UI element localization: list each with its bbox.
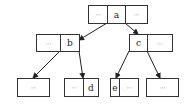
node-key-label: b — [67, 38, 73, 48]
node-d: ···d — [65, 79, 99, 97]
edge-arrow-root-to-c — [125, 23, 138, 34]
node-key-label: c — [136, 38, 141, 48]
node-root: ···a··· — [89, 6, 148, 24]
ellipsis-label: ··· — [31, 84, 37, 91]
nodes: ···a······bc·········de······ — [18, 6, 179, 97]
edge-arrow-root-to-b — [79, 23, 107, 40]
edge-arrow-c-to-leaf4 — [147, 51, 160, 78]
node-key-label: a — [114, 10, 120, 20]
node-c: c··· — [130, 35, 173, 52]
ellipsis-label: ··· — [71, 84, 77, 91]
tree-diagram: ···a······bc·········de······ — [0, 0, 191, 107]
node-key-label: d — [88, 83, 94, 93]
edge-arrow-b-to-leaf1 — [33, 51, 60, 78]
node-leaf1: ··· — [18, 79, 50, 97]
ellipsis-label: ··· — [95, 11, 101, 18]
ellipsis-label: ··· — [157, 40, 163, 47]
ellipsis-label: ··· — [46, 40, 52, 47]
edge-arrow-c-to-e — [116, 51, 129, 78]
node-b: ···b — [37, 35, 80, 52]
node-key-label: e — [112, 83, 117, 93]
ellipsis-label: ··· — [160, 84, 166, 91]
edge-arrow-b-to-d — [79, 51, 83, 78]
node-leaf4: ··· — [147, 79, 179, 97]
ellipsis-label: ··· — [134, 11, 140, 18]
node-e: e··· — [111, 79, 139, 97]
ellipsis-label: ··· — [126, 84, 132, 91]
